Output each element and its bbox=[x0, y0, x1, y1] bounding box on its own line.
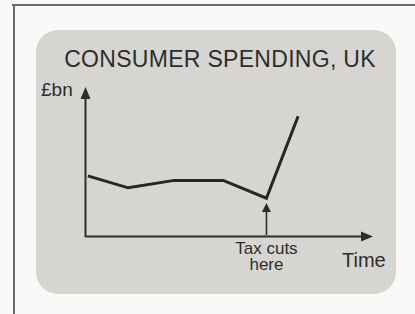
x-axis-label: Time bbox=[342, 249, 386, 272]
tax-cuts-annotation-line2: here bbox=[249, 255, 283, 274]
scanned-figure-page: CONSUMER SPENDING, UK £bn Time Tax cuts … bbox=[0, 0, 415, 314]
tax-cuts-arrowhead-icon bbox=[262, 203, 271, 212]
spending-line bbox=[88, 116, 298, 198]
y-axis-label: £bn bbox=[41, 79, 73, 101]
tax-cuts-annotation: Tax cuts here bbox=[211, 241, 321, 273]
y-axis-arrowhead-icon bbox=[81, 87, 91, 99]
tax-cuts-arrow bbox=[262, 203, 271, 235]
x-axis-arrowhead-icon bbox=[361, 232, 373, 242]
